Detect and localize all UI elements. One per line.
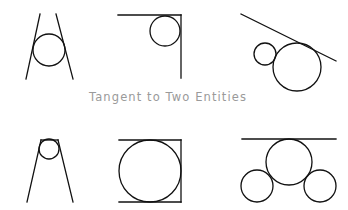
tangent-circle xyxy=(273,43,321,91)
tangent-line xyxy=(58,140,73,202)
tangent-circle xyxy=(39,139,59,159)
tangent-circle xyxy=(119,140,181,202)
figure-circle-in-corner xyxy=(118,15,181,78)
figure-circle-tangent-to-line-and-circle xyxy=(241,14,336,91)
caption-tangent-to-two-entities: Tangent to Two Entities xyxy=(0,90,336,104)
figure-circle-between-two-converging-lines xyxy=(26,14,73,79)
tangent-circle xyxy=(150,16,180,46)
tangent-circle xyxy=(254,43,276,65)
tangent-circle xyxy=(241,170,273,202)
figure-circle-at-apex-of-converging-lines xyxy=(27,139,73,202)
figure-circle-between-parallel-lines xyxy=(119,140,181,202)
tangent-line xyxy=(241,14,336,61)
tangent-circle xyxy=(266,139,312,185)
figure-circle-tangent-to-line-and-two-circles xyxy=(241,139,336,202)
diagram-canvas xyxy=(0,0,348,210)
tangent-circle xyxy=(33,34,65,66)
tangent-circle xyxy=(304,170,336,202)
